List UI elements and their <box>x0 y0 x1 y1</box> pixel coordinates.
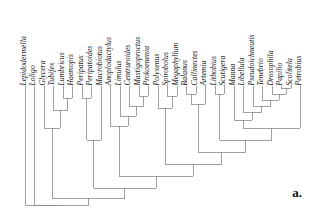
tree-branch-lines <box>25 86 300 205</box>
panel-label: a. <box>292 185 302 201</box>
figure-panel: LepidodermellaLoligoGlyceraTubifexLumbri… <box>0 0 320 215</box>
cladogram-svg <box>0 0 320 215</box>
